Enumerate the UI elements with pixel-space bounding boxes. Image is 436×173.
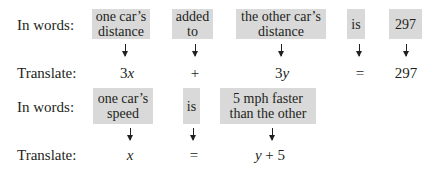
down-arrow-icon bbox=[281, 44, 282, 56]
row2-symbol-equals: = bbox=[190, 148, 198, 163]
row1-phrase-297: 297 bbox=[389, 9, 422, 39]
row2-translate-label: Translate: bbox=[17, 148, 76, 163]
row1-symbol-3x: 3x bbox=[120, 66, 134, 81]
row1-symbol-plus: + bbox=[191, 66, 199, 81]
down-arrow-icon bbox=[130, 128, 131, 140]
row1-words-label: In words: bbox=[17, 18, 74, 33]
row1-phrase-added-to: added to bbox=[172, 9, 213, 39]
row1-phrase-one-cars-distance: one car’s distance bbox=[92, 9, 150, 39]
down-arrow-icon bbox=[193, 128, 194, 140]
row1-translate-label: Translate: bbox=[17, 66, 76, 81]
row2-phrase-5-mph-faster: 5 mph faster than the other bbox=[220, 88, 316, 124]
row1-symbol-3y: 3y bbox=[275, 66, 289, 81]
row1-phrase-is: is bbox=[347, 9, 365, 39]
row1-symbol-equals: = bbox=[356, 66, 364, 81]
down-arrow-icon bbox=[359, 44, 360, 56]
row1-symbol-297: 297 bbox=[395, 66, 418, 81]
row2-symbol-x: x bbox=[127, 148, 134, 163]
row1-phrase-other-cars-distance: the other car’s distance bbox=[236, 9, 326, 39]
down-arrow-icon bbox=[406, 44, 407, 56]
down-arrow-icon bbox=[272, 128, 273, 140]
down-arrow-icon bbox=[125, 44, 126, 56]
down-arrow-icon bbox=[195, 44, 196, 56]
row2-phrase-one-cars-speed: one car’s speed bbox=[93, 88, 153, 124]
row2-words-label: In words: bbox=[17, 100, 74, 115]
row2-phrase-is: is bbox=[183, 88, 200, 124]
row2-symbol-y-plus-5: y + 5 bbox=[255, 148, 285, 163]
